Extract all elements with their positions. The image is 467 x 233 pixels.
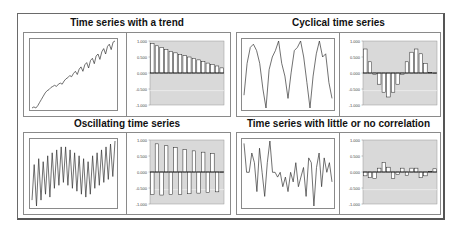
acf-bar (391, 73, 395, 92)
acf-bar (405, 62, 409, 73)
acf-bar (192, 58, 196, 73)
acf-bar (215, 66, 219, 73)
acf-bar (178, 54, 182, 73)
acf-bar (419, 172, 423, 178)
acf-bar (178, 172, 182, 194)
y-tick-label: 1.000 (137, 138, 148, 143)
y-tick-label: 0.500 (350, 154, 361, 159)
panel-oscillating: 1.0000.5000.000-0.500-1.000 (23, 132, 231, 215)
acf-bar (197, 172, 201, 193)
acf-bar (174, 53, 178, 73)
panel-divider (339, 133, 340, 214)
acf-bar (164, 146, 168, 172)
acf-bar (419, 54, 423, 73)
acf-bar (151, 172, 155, 194)
acf-bar (169, 51, 173, 73)
line-plot-oscillating (29, 138, 118, 209)
acf-bar (373, 172, 377, 178)
acf-bar (377, 168, 381, 172)
acf-bar (155, 46, 159, 73)
acf-bar (364, 49, 368, 73)
y-tick-label: 0.500 (137, 154, 148, 159)
acf-bar (405, 172, 409, 175)
acf-bar (197, 60, 201, 73)
y-tick-label: 0.500 (350, 55, 361, 60)
acf-bar (368, 62, 372, 73)
y-tick-label: -1.000 (349, 103, 361, 108)
y-tick-label: 0.000 (137, 71, 148, 76)
title-cyclical: Cyclical time series (236, 17, 441, 28)
acf-bar (160, 47, 164, 73)
y-tick-label: 1.000 (350, 39, 361, 44)
acf-bar (174, 148, 178, 172)
y-tick-label: -0.500 (136, 186, 148, 191)
acf-bar (387, 167, 391, 172)
acf-bar (201, 152, 205, 172)
panel-divider (339, 33, 340, 116)
acf-plot-trend: 1.0000.5000.000-0.500-1.000 (128, 36, 228, 114)
acf-bar (396, 73, 400, 84)
y-tick-label: -0.500 (136, 87, 148, 92)
panel-uncorrelated: 1.0000.5000.000-0.500-1.000 (236, 132, 441, 215)
y-tick-label: -1.000 (349, 202, 361, 207)
acf-bar (211, 153, 215, 172)
acf-bar (215, 172, 219, 192)
acf-bar (410, 52, 414, 73)
acf-bar (201, 61, 205, 73)
panel-divider (126, 33, 127, 116)
acf-bar (206, 63, 210, 73)
acf-bar (164, 49, 168, 73)
y-tick-label: -0.500 (349, 87, 361, 92)
acf-bar (424, 63, 428, 73)
y-tick-label: -1.000 (136, 103, 148, 108)
acf-bar (151, 44, 155, 73)
acf-bar (433, 169, 437, 172)
acf-bar (155, 144, 159, 172)
acf-bar (183, 150, 187, 172)
acf-bar (364, 172, 368, 176)
acf-bar (401, 168, 405, 172)
y-tick-label: 1.000 (137, 39, 148, 44)
acf-bar (368, 172, 372, 178)
acf-bar (414, 49, 418, 73)
y-tick-label: 0.000 (137, 170, 148, 175)
acf-bar (169, 172, 173, 194)
y-tick-label: -1.000 (136, 202, 148, 207)
series-line (244, 41, 332, 108)
acf-bar (192, 151, 196, 172)
line-plot-cyclical (241, 38, 335, 111)
acf-bar (391, 172, 395, 178)
acf-bar (410, 168, 414, 172)
acf-bar (160, 172, 164, 195)
y-tick-label: 0.000 (350, 170, 361, 175)
acf-bar (377, 73, 381, 84)
acf-bar (188, 57, 192, 73)
title-uncorrelated: Time series with little or no correlatio… (236, 118, 441, 129)
y-tick-label: 0.500 (137, 55, 148, 60)
y-tick-label: -0.500 (349, 186, 361, 191)
acf-bar (424, 172, 428, 176)
acf-bar (382, 73, 386, 92)
series-line (32, 41, 115, 108)
series-line (32, 141, 115, 206)
title-trend: Time series with a trend (23, 17, 231, 28)
acf-plot-cyclical: 1.0000.5000.000-0.500-1.000 (341, 36, 441, 114)
acf-bar (414, 168, 418, 172)
acf-plot-oscillating: 1.0000.5000.000-0.500-1.000 (128, 135, 228, 213)
title-oscillating: Oscillating time series (23, 118, 231, 129)
panel-trend: 1.0000.5000.000-0.500-1.000 (23, 32, 231, 117)
acf-bar (387, 73, 391, 97)
acf-bar (206, 172, 210, 192)
y-tick-label: 1.000 (350, 138, 361, 143)
series-line (244, 141, 332, 206)
acf-bar (382, 162, 386, 172)
acf-bar (211, 64, 215, 73)
line-plot-uncorrelated (241, 138, 335, 209)
line-plot-trend (29, 38, 118, 111)
y-tick-label: 0.000 (350, 71, 361, 76)
acf-plot-uncorrelated: 1.0000.5000.000-0.500-1.000 (341, 135, 441, 213)
acf-bar (183, 56, 187, 73)
panel-divider (126, 133, 127, 214)
acf-bar (220, 68, 224, 73)
panel-cyclical: 1.0000.5000.000-0.500-1.000 (236, 32, 441, 117)
